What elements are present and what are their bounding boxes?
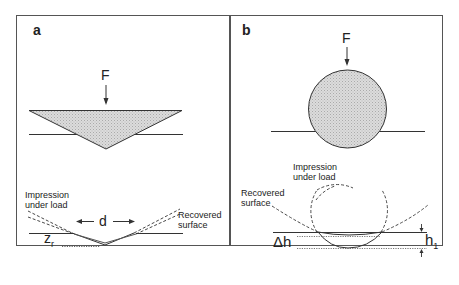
panel-b-dashed-arc-left-top bbox=[316, 186, 335, 200]
panel-b-dashed-arc-right bbox=[381, 190, 387, 232]
panel-a: a F Impression under load Recovered surf… bbox=[17, 16, 230, 250]
panel-b-force-label: F bbox=[342, 30, 351, 46]
panel-a-dashed-recovered-right bbox=[136, 214, 180, 234]
panel-b-h1-arrowhead-bottom-icon bbox=[420, 249, 424, 253]
panel-b-dashed-recovered-left bbox=[272, 206, 318, 232]
panel-b: b F Impression under load Recovered surf… bbox=[231, 16, 443, 258]
panel-a-dashed-recovered-left bbox=[28, 217, 74, 234]
panel-a-recovered-label-1: Recovered bbox=[178, 210, 222, 220]
panel-a-arrowhead-left-icon bbox=[76, 219, 82, 224]
panel-a-impression-label-1: Impression bbox=[25, 190, 69, 200]
panel-a-impression-label-2: under load bbox=[25, 200, 68, 210]
panel-b-recovered-label-1: Recovered bbox=[241, 188, 285, 198]
panel-b-h1-arrowhead-top-icon bbox=[420, 228, 424, 232]
panel-b-dashed-load-circle-left bbox=[311, 185, 353, 232]
panel-b-spherical-indenter bbox=[309, 70, 387, 148]
panel-a-force-arrowhead-icon bbox=[104, 98, 109, 105]
panel-a-depth-label: zr bbox=[44, 230, 54, 249]
panel-a-dashed-load-right bbox=[134, 209, 180, 233]
panel-a-recovered-label-2: surface bbox=[178, 220, 208, 230]
panel-a-recovered-profile bbox=[74, 234, 136, 243]
panel-a-impression-under-load bbox=[72, 233, 134, 245]
panel-b-recovered-label-2: surface bbox=[241, 198, 271, 208]
panel-b-force-arrowhead-icon bbox=[345, 59, 350, 66]
panel-a-diameter-label: d bbox=[99, 213, 107, 229]
panel-a-conical-indenter bbox=[29, 111, 182, 150]
indentation-diagram: a F Impression under load Recovered surf… bbox=[0, 0, 459, 285]
panel-b-delta-h-label: Δh bbox=[273, 233, 291, 250]
panel-a-arrowhead-right-icon bbox=[129, 219, 135, 224]
panel-b-impression-label-1: Impression bbox=[293, 162, 337, 172]
panel-a-force-label: F bbox=[101, 67, 110, 83]
panel-a-label: a bbox=[33, 22, 41, 38]
panel-b-h1-label: h1 bbox=[425, 231, 438, 251]
panel-b-impression-label-2: under load bbox=[293, 172, 336, 182]
panel-b-label: b bbox=[242, 22, 251, 38]
